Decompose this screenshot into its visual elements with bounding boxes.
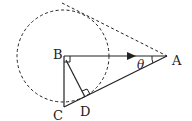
segment-BD — [66, 60, 85, 97]
segment-CA — [64, 56, 167, 107]
label-theta: θ — [137, 58, 145, 72]
tangent-line — [62, 3, 167, 56]
geometry-diagram: B A C D θ — [0, 0, 192, 121]
label-C: C — [53, 108, 63, 121]
label-A: A — [171, 53, 182, 68]
angle-arc — [152, 56, 153, 63]
label-B: B — [53, 47, 63, 62]
arrow-icon — [127, 52, 136, 60]
label-D: D — [80, 104, 90, 119]
